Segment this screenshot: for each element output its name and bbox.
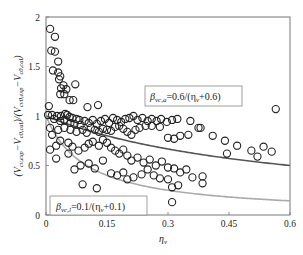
y-tick-label: 1 <box>35 112 40 122</box>
chart: 00.150.30.450.6 00.511.52 βvc,a=0.6/(ηv+… <box>0 0 303 255</box>
x-tick-label: 0.45 <box>221 219 238 229</box>
y-tick-label: 2 <box>35 13 40 23</box>
x-axis-title: ηv <box>159 233 168 246</box>
y-tick-label: 0.5 <box>28 161 40 171</box>
legend-beta-vc-l: βvc,l=0.1/(ηv+0.1) <box>50 196 147 215</box>
x-tick-label: 0.6 <box>284 219 296 229</box>
x-tick-label: 0.3 <box>162 219 174 229</box>
y-tick-label: 1.5 <box>28 62 40 72</box>
x-tick-label: 0 <box>44 219 49 229</box>
legend-beta-vc-a: βvc,a=0.6/(ηv+0.6) <box>145 86 242 106</box>
plot-frame <box>46 17 290 215</box>
y-tick-label: 0 <box>35 211 40 221</box>
x-tick-label: 0.15 <box>99 219 116 229</box>
y-axis-title: (Vcv,exp−Vc0,cal)/(Vcv0,exp−Vc0,cal) <box>12 55 24 177</box>
